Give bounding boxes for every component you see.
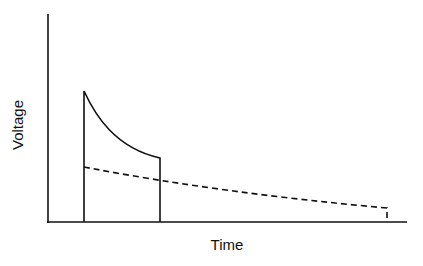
x-axis-label: Time	[211, 236, 244, 253]
y-axis-label: Voltage	[9, 100, 26, 150]
voltage-time-diagram: Time Voltage	[0, 0, 423, 266]
solid-pulse-curve	[84, 91, 160, 222]
dashed-decay-curve	[84, 167, 387, 222]
